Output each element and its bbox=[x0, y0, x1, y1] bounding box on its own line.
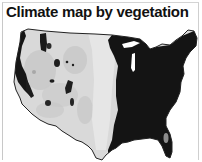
humid-east-zone bbox=[108, 31, 200, 162]
mountain-forest-patch bbox=[54, 59, 60, 67]
mountain-forest-north bbox=[40, 33, 47, 52]
us-vegetation-map bbox=[0, 0, 202, 162]
map-zones bbox=[0, 0, 202, 162]
florida-marsh bbox=[164, 133, 169, 143]
